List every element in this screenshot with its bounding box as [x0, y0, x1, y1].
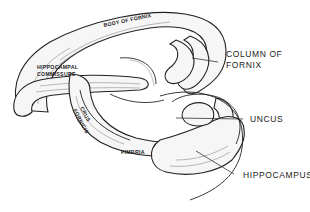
label-fimbria: FIMBRIA	[121, 149, 145, 155]
label-column-of-fornix-2: FORNIX	[226, 60, 262, 70]
label-hippocampal-commissure-2: COMMISSURE	[37, 71, 76, 77]
label-uncus: UNCUS	[250, 114, 283, 124]
fornix-hippocampus-diagram: BODY OF FORNIX HIPPOCAMPAL COMMISSURE CR…	[0, 0, 310, 212]
inner-contour-line	[110, 94, 164, 102]
label-hippocampal-commissure-1: HIPPOCAMPAL	[37, 64, 79, 70]
label-hippocampus: HIPPOCAMPUS	[243, 170, 310, 180]
label-column-of-fornix-1: COLUMN OF	[226, 49, 282, 59]
